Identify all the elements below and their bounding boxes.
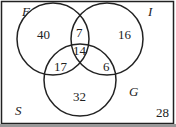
region-f-only: 40 <box>37 27 50 42</box>
bottom-shadow-border <box>0 124 176 127</box>
region-f-and-i: 7 <box>76 25 83 40</box>
region-outside: 28 <box>156 105 169 120</box>
region-g-only: 32 <box>73 89 86 104</box>
universe-label: S <box>15 103 22 118</box>
set-label-f: F <box>21 4 31 19</box>
set-label-g: G <box>129 84 139 99</box>
venn-diagram: F I G S 40 16 7 14 17 6 32 28 <box>0 0 176 127</box>
universe-rectangle <box>2 2 174 124</box>
set-label-i: I <box>147 4 153 19</box>
region-f-i-g: 14 <box>73 43 87 58</box>
region-i-and-g: 6 <box>103 59 110 74</box>
region-f-and-g: 17 <box>54 59 68 74</box>
region-i-only: 16 <box>118 27 132 42</box>
